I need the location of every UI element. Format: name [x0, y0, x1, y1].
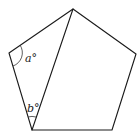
angle-b-label: b°	[27, 102, 40, 115]
angle-a-arc	[13, 45, 22, 66]
pentagon-diagram: a° b°	[0, 0, 140, 137]
diagram-svg: a° b°	[0, 0, 140, 137]
angle-a-label: a°	[25, 52, 37, 65]
angle-b-arc	[28, 116, 36, 117]
